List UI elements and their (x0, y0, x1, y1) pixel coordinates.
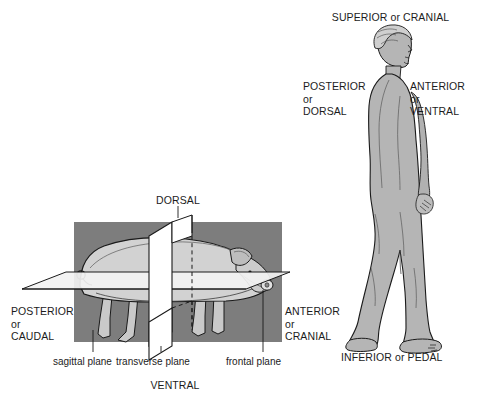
pig-anterior-label: ANTERIOR or CRANIAL (285, 305, 351, 343)
pig-ventral-label: VENTRAL (137, 379, 213, 392)
human-inferior-label: INFERIOR or PEDAL (341, 351, 481, 364)
transverse-plane-caption: transverse plane (116, 356, 206, 368)
human-anterior-label: ANTERIOR or VENTRAL (410, 80, 476, 118)
anatomical-planes-figure: SUPERIOR or CRANIAL POSTERIOR or DORSAL … (0, 0, 481, 403)
human-hand (416, 194, 433, 214)
human-posterior-label: POSTERIOR or DORSAL (303, 80, 363, 118)
human-superior-label: SUPERIOR or CRANIAL (305, 11, 476, 24)
human-figure (346, 25, 442, 353)
frontal-plane-caption: frontal plane (226, 356, 300, 368)
figure-artwork (0, 0, 481, 403)
pig-dorsal-label: DORSAL (140, 194, 216, 207)
pig-posterior-label: POSTERIOR or CAUDAL (11, 305, 77, 343)
